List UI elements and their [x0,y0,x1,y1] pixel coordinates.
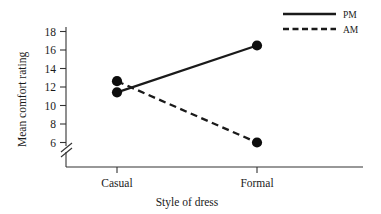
x-axis-ticks [117,167,257,173]
series-line-pm [117,46,257,93]
data-point-pm-formal [252,40,262,50]
y-axis-title: Mean comfort rating [16,52,29,147]
y-axis-ticks [60,32,66,143]
y-tick-label-18: 18 [45,26,57,38]
data-point-pm-casual [112,87,122,97]
y-tick-label-10: 10 [45,100,57,112]
y-tick-label-8: 8 [50,118,56,130]
line-chart: Mean comfort rating 18 16 14 12 10 8 6 [0,0,381,214]
data-point-am-formal [252,137,262,147]
data-point-am-casual [112,76,122,86]
y-tick-label-12: 12 [45,81,57,93]
y-tick-label-14: 14 [45,63,57,75]
x-tick-label-formal: Formal [240,177,273,189]
y-tick-label-6: 6 [50,137,56,149]
y-tick-label-16: 16 [45,44,57,56]
legend-label-am: AM [343,25,359,35]
legend-label-pm: PM [343,10,357,20]
legend: PM AM [283,10,359,35]
series-line-am [117,81,257,142]
y-axis-tick-labels: 18 16 14 12 10 8 6 [45,26,57,149]
x-tick-label-casual: Casual [101,177,132,189]
x-axis-title: Style of dress [156,196,219,209]
